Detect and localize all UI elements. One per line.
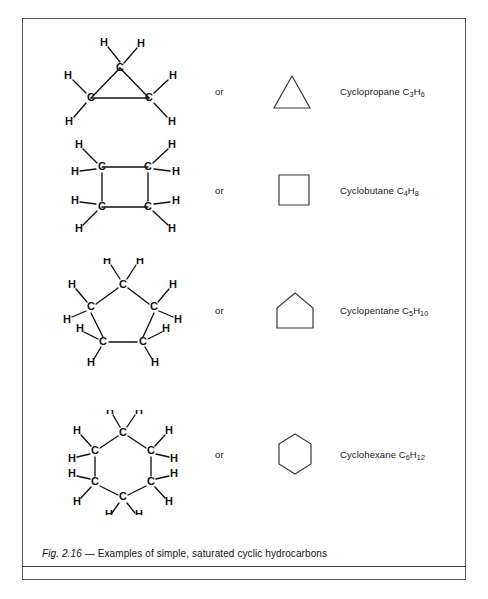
atom-hydrogen: H	[106, 410, 114, 416]
atom-carbon: C	[98, 160, 106, 172]
atom-carbon: C	[99, 335, 107, 347]
caption-dash: —	[82, 548, 98, 559]
caption-divider-rule	[22, 566, 466, 567]
skeleton-square-cyclobutane	[274, 170, 316, 212]
atom-carbon: C	[119, 278, 127, 290]
skeleton-hexagon-cyclohexane	[273, 430, 317, 478]
atom-hydrogen: H	[162, 322, 170, 334]
compound-name: Cyclohexane	[340, 449, 396, 460]
atom-hydrogen: H	[73, 424, 81, 436]
atom-carbon: C	[87, 91, 95, 103]
compound-formula: C6H12	[399, 449, 425, 460]
or-connector-cyclobutane: or	[215, 185, 224, 196]
atom-hydrogen: H	[76, 322, 84, 334]
atom-hydrogen: H	[68, 278, 76, 290]
atom-carbon: C	[147, 475, 155, 487]
atom-hydrogen: H	[135, 508, 143, 515]
compound-formula: C3H6	[403, 86, 425, 97]
atom-carbon: C	[119, 490, 127, 502]
atom-hydrogen: H	[71, 165, 79, 177]
atom-hydrogen: H	[135, 410, 143, 416]
compound-formula: C5H10	[402, 305, 428, 316]
atom-carbon: C	[147, 444, 155, 456]
structure-cyclopropane: C C C H H H H H H	[58, 36, 208, 136]
atom-hydrogen: H	[65, 115, 73, 127]
or-connector-cyclohexane: or	[215, 449, 224, 460]
atom-hydrogen: H	[168, 115, 176, 127]
atom-hydrogen: H	[63, 313, 71, 325]
atom-hydrogen: H	[168, 222, 176, 234]
compound-name: Cyclopropane	[340, 86, 400, 97]
atom-hydrogen: H	[103, 258, 111, 266]
structure-cyclohexane: C C C C C C H H H H H H H H H H H H	[58, 410, 213, 515]
atom-carbon: C	[116, 61, 124, 73]
atom-carbon: C	[150, 300, 158, 312]
structure-cyclobutane: C C C C H H H H H H H H	[58, 140, 208, 255]
compound-formula: C4H8	[397, 185, 419, 196]
atom-hydrogen: H	[165, 424, 173, 436]
atom-hydrogen: H	[165, 495, 173, 507]
atom-hydrogen: H	[172, 194, 180, 206]
atom-hydrogen: H	[68, 452, 76, 464]
atom-hydrogen: H	[64, 69, 72, 81]
atom-hydrogen: H	[105, 508, 113, 515]
figure-page: C C C H H H H H H or Cyclopropane C3H6	[0, 0, 488, 599]
atom-carbon: C	[98, 200, 106, 212]
label-cyclopentane: Cyclopentane C5H10	[340, 305, 428, 318]
atom-hydrogen: H	[100, 36, 108, 48]
caption-text: Examples of simple, saturated cyclic hyd…	[98, 548, 327, 559]
atom-hydrogen: H	[73, 495, 81, 507]
atom-carbon: C	[87, 300, 95, 312]
atom-hydrogen: H	[169, 69, 177, 81]
atom-carbon: C	[139, 335, 147, 347]
atom-carbon: C	[145, 91, 153, 103]
atom-hydrogen: H	[136, 258, 144, 266]
atom-carbon: C	[119, 426, 127, 438]
label-cyclobutane: Cyclobutane C4H8	[340, 185, 419, 198]
atom-hydrogen: H	[151, 356, 159, 368]
atom-hydrogen: H	[172, 165, 180, 177]
atom-carbon: C	[91, 475, 99, 487]
or-connector-cyclopropane: or	[215, 86, 224, 97]
label-cyclohexane: Cyclohexane C6H12	[340, 449, 425, 462]
atom-hydrogen: H	[71, 194, 79, 206]
structure-cyclopentane: C C C C C H H H H H H H H H H	[58, 258, 213, 368]
atom-hydrogen: H	[174, 313, 182, 325]
skeleton-triangle-cyclopropane	[270, 70, 320, 116]
skeleton-pentagon-cyclopentane	[272, 288, 318, 332]
label-cyclopropane: Cyclopropane C3H6	[340, 86, 425, 99]
atom-carbon: C	[144, 160, 152, 172]
figure-caption: Fig. 2.16 — Examples of simple, saturate…	[42, 548, 327, 559]
compound-name: Cyclopentane	[340, 305, 399, 316]
atom-carbon: C	[91, 444, 99, 456]
atom-hydrogen: H	[170, 467, 178, 479]
or-connector-cyclopentane: or	[215, 305, 224, 316]
atom-hydrogen: H	[169, 278, 177, 290]
atom-hydrogen: H	[75, 222, 83, 234]
atom-hydrogen: H	[68, 467, 76, 479]
atom-hydrogen: H	[170, 452, 178, 464]
atom-hydrogen: H	[87, 356, 95, 368]
atom-carbon: C	[144, 200, 152, 212]
atom-hydrogen: H	[168, 140, 176, 150]
atom-hydrogen: H	[75, 140, 83, 150]
figure-number: Fig. 2.16	[42, 548, 82, 559]
atom-hydrogen: H	[137, 37, 145, 49]
compound-name: Cyclobutane	[340, 185, 394, 196]
